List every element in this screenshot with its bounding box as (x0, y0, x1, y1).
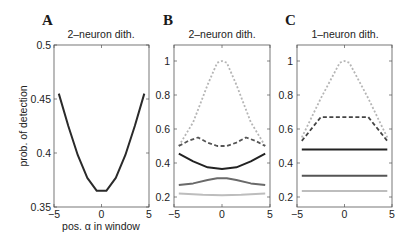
panel-a-lines (59, 94, 145, 191)
a-ytick-0.4: 0.4 (36, 147, 51, 159)
b-xtick-neg5: −5 (168, 208, 180, 220)
series-line-light-solid (179, 194, 265, 196)
panel-a-title: 2–neuron dith. (67, 28, 134, 40)
c-ytick-0.4: 0.4 (278, 157, 293, 169)
c-ytick-0.2: 0.2 (278, 191, 293, 203)
panel-c-ticks (297, 45, 392, 207)
c-ytick-0.6: 0.6 (278, 123, 293, 135)
c-xtick-5: 5 (389, 208, 395, 220)
panel-c: C 1–neuron dith. 1 0.8 0.6 0.4 0.2 −5 0 … (278, 12, 395, 220)
c-ytick-0.8: 0.8 (278, 89, 293, 101)
c-xtick-0: 0 (342, 208, 348, 220)
panel-b-title: 2–neuron dith. (188, 28, 255, 40)
c-ytick-1: 1 (287, 55, 293, 67)
panel-b-lines (179, 61, 265, 195)
panel-a: A 2–neuron dith. 0.5 0.45 0.4 0.35 −5 0 … (17, 12, 152, 232)
c-xtick-neg5: −5 (291, 208, 303, 220)
panel-letter-a: A (42, 12, 53, 28)
a-xtick-0: 0 (99, 208, 105, 220)
figure: A 2–neuron dith. 0.5 0.45 0.4 0.35 −5 0 … (0, 0, 409, 238)
a-ytick-0.5: 0.5 (36, 39, 51, 51)
b-xtick-5: 5 (267, 208, 273, 220)
a-ylabel: prob. of detection (17, 85, 29, 166)
b-ytick-0.2: 0.2 (155, 191, 170, 203)
b-ytick-0.6: 0.6 (155, 123, 170, 135)
panel-c-lines (302, 61, 388, 191)
series-line-black-solid (179, 154, 265, 169)
series-line-dark-dashed (179, 138, 265, 147)
series-line-gray-solid (179, 178, 265, 185)
series-line-dark-dashed (302, 117, 388, 141)
panel-b-ticks (174, 45, 270, 207)
panel-b: B 2–neuron dith. 1 0.8 0.6 0.4 0.2 −5 0 … (155, 12, 273, 220)
a-ytick-0.45: 0.45 (31, 93, 52, 105)
panel-letter-c: C (285, 12, 296, 28)
b-xtick-0: 0 (219, 208, 225, 220)
b-ytick-0.4: 0.4 (155, 157, 170, 169)
panel-c-axes (297, 45, 392, 207)
series-line-light-dotted (179, 61, 265, 146)
a-xtick-neg5: −5 (48, 208, 60, 220)
b-ytick-1: 1 (164, 55, 170, 67)
a-xlabel: pos. α in window (62, 220, 140, 232)
series-line-detection (59, 94, 145, 191)
panel-c-title: 1–neuron dith. (311, 28, 378, 40)
a-xtick-5: 5 (146, 208, 152, 220)
b-ytick-0.8: 0.8 (155, 89, 170, 101)
panel-letter-b: B (163, 12, 173, 28)
panel-b-axes (174, 45, 270, 207)
